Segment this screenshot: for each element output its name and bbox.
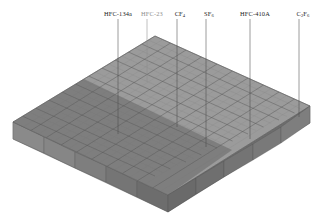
three-d-surface-plot <box>0 0 322 224</box>
top-surface <box>0 36 310 195</box>
three-d-bar-chart-figure: HFC-134aHFC-23CF4SF6HFC-410AC2F6 <box>0 0 322 224</box>
